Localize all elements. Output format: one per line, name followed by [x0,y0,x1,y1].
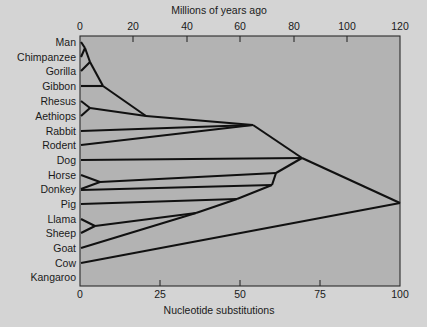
top-tick-label-40: 40 [181,20,193,32]
top-axis-title: Millions of years ago [171,4,267,16]
taxon-label-horse: Horse [48,169,76,181]
bottom-axis-title: Nucleotide substitutions [164,304,275,316]
phylogenetic-tree-figure: Millions of years ago 0 20 40 60 80 100 … [0,0,427,327]
taxon-label-dog: Dog [57,154,76,166]
taxon-label-rodent: Rodent [42,139,76,151]
taxon-labels: Man Chimpanzee Gorilla Gibbon Rhesus Aet… [17,36,77,283]
top-tick-label-60: 60 [234,20,246,32]
taxon-label-goat: Goat [53,242,76,254]
taxon-label-cow: Cow [55,257,76,269]
top-tick-label-80: 80 [288,20,300,32]
taxon-label-aethiops: Aethiops [35,110,76,122]
top-tick-label-20: 20 [127,20,139,32]
taxon-label-rabbit: Rabbit [46,125,76,137]
top-tick-label-120: 120 [391,20,409,32]
taxon-label-chimpanzee: Chimpanzee [17,51,76,63]
taxon-label-kangaroo: Kangaroo [30,271,76,283]
taxon-label-gibbon: Gibbon [42,80,76,92]
bottom-tick-label-50: 50 [234,288,246,300]
top-tick-label-0: 0 [77,20,83,32]
bottom-tick-label-100: 100 [391,288,409,300]
taxon-label-rhesus: Rhesus [40,95,76,107]
bottom-tick-label-25: 25 [154,288,166,300]
taxon-label-llama: Llama [47,213,76,225]
taxon-label-gorilla: Gorilla [46,65,77,77]
top-tick-label-100: 100 [338,20,356,32]
taxon-label-sheep: Sheep [46,227,77,239]
bottom-tick-label-0: 0 [77,288,83,300]
taxon-label-pig: Pig [61,198,76,210]
taxon-label-man: Man [56,36,77,48]
taxon-label-donkey: Donkey [40,183,76,195]
bottom-tick-label-75: 75 [314,288,326,300]
plot-area [80,36,400,286]
